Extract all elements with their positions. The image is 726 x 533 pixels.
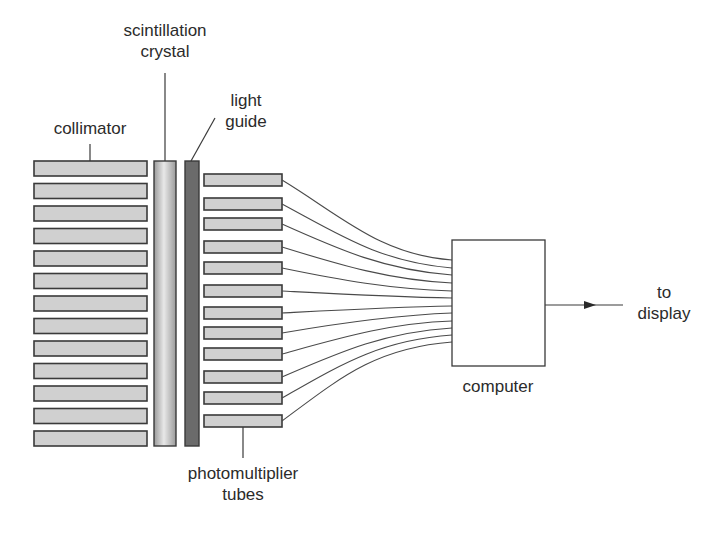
- collimator: [34, 161, 147, 446]
- collimator-bar: [34, 229, 147, 244]
- light-guide: [185, 161, 199, 446]
- collimator-bar: [34, 274, 147, 289]
- label-line: guide: [218, 111, 274, 132]
- arrowhead-icon: [584, 301, 596, 309]
- photomultiplier-tubes: [204, 174, 282, 427]
- collimator-bar: [34, 161, 147, 176]
- collimator-bar: [34, 206, 147, 221]
- label-photomultiplier-tubes: photomultiplier tubes: [168, 463, 318, 505]
- pmt: [204, 415, 282, 427]
- label-light-guide: light guide: [218, 90, 274, 132]
- pmt: [204, 174, 282, 186]
- label-line: to: [624, 282, 704, 303]
- label-collimator: collimator: [40, 118, 140, 139]
- label-line: crystal: [105, 41, 225, 62]
- label-line: light: [218, 90, 274, 111]
- label-line: photomultiplier: [168, 463, 318, 484]
- label-to-display: to display: [624, 282, 704, 324]
- collimator-bar: [34, 296, 147, 311]
- pmt: [204, 327, 282, 339]
- pmt: [204, 371, 282, 383]
- collimator-bar: [34, 386, 147, 401]
- label-scintillation-crystal: scintillation crystal: [105, 20, 225, 62]
- pmt: [204, 241, 282, 253]
- collimator-bar: [34, 409, 147, 424]
- label-computer: computer: [448, 376, 548, 397]
- leader-light-guide: [191, 118, 215, 161]
- pmt: [204, 348, 282, 360]
- label-line: display: [624, 303, 704, 324]
- collimator-bar: [34, 341, 147, 356]
- collimator-bar: [34, 364, 147, 379]
- pmt: [204, 285, 282, 297]
- label-line: scintillation: [105, 20, 225, 41]
- collimator-bar: [34, 431, 147, 446]
- pmt: [204, 307, 282, 319]
- collimator-bar: [34, 184, 147, 199]
- collimator-bar: [34, 251, 147, 266]
- scintillation-crystal: [154, 161, 176, 446]
- signal-wires: [282, 180, 452, 421]
- collimator-bar: [34, 319, 147, 334]
- pmt: [204, 262, 282, 274]
- computer-box: [452, 240, 545, 366]
- pmt: [204, 198, 282, 210]
- pmt: [204, 218, 282, 230]
- pmt: [204, 392, 282, 404]
- label-line: tubes: [168, 484, 318, 505]
- gamma-camera-diagram: [0, 0, 726, 533]
